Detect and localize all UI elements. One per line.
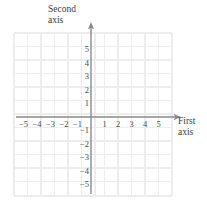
y-axis-title: Second axis (48, 4, 76, 26)
y-tick-label: 1 (75, 98, 89, 108)
y-tick-label: −5 (75, 179, 89, 189)
y-tick-label: −1 (75, 125, 89, 135)
y-tick-label: −3 (75, 152, 89, 162)
y-axis-title-line-2: axis (48, 15, 76, 26)
y-tick-label: 4 (75, 58, 89, 68)
y-tick-label: 3 (75, 71, 89, 81)
x-tick-label: 5 (151, 119, 167, 129)
y-tick-label: −2 (75, 139, 89, 149)
x-axis-title-line-1: First (178, 116, 195, 127)
x-axis-title: First axis (178, 116, 195, 138)
y-tick-label: −4 (75, 166, 89, 176)
x-axis-title-line-2: axis (178, 127, 195, 138)
y-axis-title-line-1: Second (48, 4, 76, 15)
plot-canvas (0, 0, 207, 208)
grid-lines (14, 33, 172, 196)
coordinate-plane-figure: Second axis First axis −5−4−3−2−112345 5… (0, 0, 207, 208)
y-tick-label: 2 (75, 85, 89, 95)
y-tick-label: 5 (75, 44, 89, 54)
